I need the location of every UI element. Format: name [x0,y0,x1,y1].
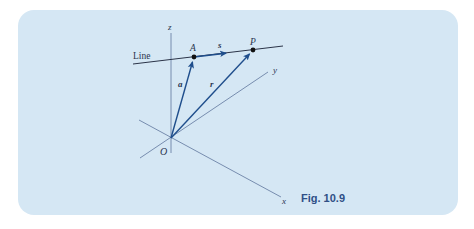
vector-a-label: a [178,79,183,89]
line-label: Line [133,51,150,61]
y-axis-label: y [272,65,277,75]
x-axis-label: x [281,196,286,206]
x-axis [139,120,281,197]
figure-caption: Fig. 10.9 [301,192,345,204]
point-a-label: A [189,43,196,53]
vector-s-label: s [217,40,222,50]
point-a-dot [192,55,197,60]
z-axis-label: z [167,22,172,32]
vector-line-diagram: Line z y x O A P a r s [0,0,474,229]
point-p-dot [251,48,256,53]
point-p-label: P [249,37,256,47]
origin-label: O [160,146,167,157]
vector-r-label: r [210,79,214,89]
vector-s-arrow [194,53,226,57]
